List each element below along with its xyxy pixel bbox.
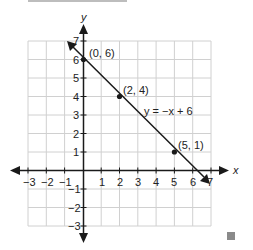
svg-text:−3: −3 xyxy=(23,176,36,188)
svg-text:4: 4 xyxy=(153,176,159,188)
arrow-right-icon xyxy=(219,166,229,175)
svg-text:3: 3 xyxy=(135,176,141,188)
arrow-down-icon xyxy=(79,233,88,243)
svg-text:2: 2 xyxy=(117,176,123,188)
grid xyxy=(28,41,211,226)
svg-text:1: 1 xyxy=(73,146,79,158)
x-tick-labels: −3 −2 −1 1 2 3 4 5 6 7 xyxy=(23,176,213,188)
svg-text:−2: −2 xyxy=(41,176,54,188)
point-0-6 xyxy=(81,57,86,62)
svg-text:5: 5 xyxy=(73,72,79,84)
point-5-1 xyxy=(172,149,177,154)
corner-marker xyxy=(227,232,235,240)
svg-text:−2: −2 xyxy=(68,202,81,214)
svg-text:1: 1 xyxy=(99,176,105,188)
svg-text:5: 5 xyxy=(171,176,177,188)
svg-text:3: 3 xyxy=(73,109,79,121)
point-label-2-4: (2, 4) xyxy=(123,84,149,96)
svg-text:4: 4 xyxy=(73,91,79,103)
y-axis-label: y xyxy=(80,11,88,23)
svg-text:6: 6 xyxy=(73,54,79,66)
arrow-left-icon xyxy=(10,166,20,175)
data-points: (0, 6) (2, 4) (5, 1) xyxy=(81,47,204,155)
svg-text:2: 2 xyxy=(73,128,79,140)
point-label-0-6: (0, 6) xyxy=(89,47,115,59)
point-2-4 xyxy=(117,94,122,99)
x-axis-label: x xyxy=(232,164,239,176)
point-label-5-1: (5, 1) xyxy=(178,139,204,151)
arrow-up-icon xyxy=(79,24,88,34)
equation-label: y = −x + 6 xyxy=(144,105,193,117)
coordinate-plane: x y −3 −2 −1 1 2 3 4 xyxy=(0,0,253,250)
svg-text:6: 6 xyxy=(190,176,196,188)
svg-text:−1: −1 xyxy=(68,183,81,195)
svg-text:−3: −3 xyxy=(68,220,81,232)
x-axis: x xyxy=(10,164,239,176)
